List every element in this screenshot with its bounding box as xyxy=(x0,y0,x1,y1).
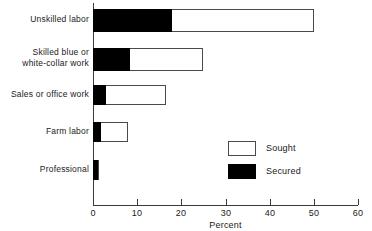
x-tick-50 xyxy=(314,199,315,205)
x-tick-label-0: 0 xyxy=(90,208,95,218)
legend-swatch-secured xyxy=(228,164,256,179)
category-label-professional: Professional xyxy=(40,164,89,175)
x-tick-60 xyxy=(358,199,359,205)
bar-segment-secured xyxy=(93,9,172,32)
x-tick-10 xyxy=(137,199,138,205)
bar-segment-secured xyxy=(93,48,130,71)
bar-chart: Unskilled labor Skilled blue or white-co… xyxy=(0,0,372,231)
bar-segment-secured xyxy=(93,122,101,142)
x-axis-line xyxy=(93,205,358,206)
legend-label-secured: Secured xyxy=(266,166,301,176)
x-tick-30 xyxy=(226,199,227,205)
x-tick-40 xyxy=(270,199,271,205)
x-axis-title: Percent xyxy=(93,220,358,230)
category-label-farm-labor: Farm labor xyxy=(46,126,89,137)
x-tick-label-40: 40 xyxy=(265,208,275,218)
x-tick-20 xyxy=(181,199,182,205)
category-label-unskilled-labor: Unskilled labor xyxy=(30,14,89,25)
category-label-sales-or-office-work: Sales or office work xyxy=(11,89,89,100)
legend-swatch-sought xyxy=(228,141,256,156)
x-tick-label-50: 50 xyxy=(309,208,319,218)
x-tick-label-20: 20 xyxy=(176,208,186,218)
legend-label-sought: Sought xyxy=(266,143,296,153)
x-tick-label-10: 10 xyxy=(132,208,142,218)
x-tick-label-30: 30 xyxy=(221,208,231,218)
bar-segment-secured xyxy=(93,160,98,180)
category-label-skilled-blue-or-white-collar-work: Skilled blue or white-collar work xyxy=(22,47,89,69)
bar-segment-secured xyxy=(93,85,106,105)
x-tick-label-60: 60 xyxy=(353,208,363,218)
x-tick-0 xyxy=(93,199,94,205)
